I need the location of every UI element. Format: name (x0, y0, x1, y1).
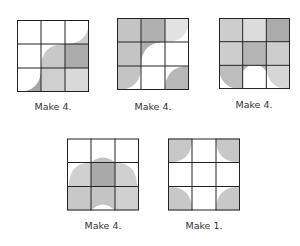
block-4-diagram (67, 138, 139, 211)
quilt-block-3 (219, 17, 290, 90)
block-2-diagram (117, 17, 189, 91)
block-2-label: Make 4. (108, 101, 198, 112)
block-1-label: Make 4. (8, 101, 98, 112)
block-1-diagram (17, 19, 89, 93)
quilt-block-5 (168, 138, 240, 211)
block-3-diagram (219, 17, 290, 90)
block-3-label: Make 4. (209, 99, 299, 110)
quilt-block-1 (17, 19, 89, 93)
block-5-label: Make 1. (159, 220, 249, 231)
block-4-label: Make 4. (58, 220, 148, 231)
block-5-diagram (168, 138, 240, 211)
quilt-block-4 (67, 138, 139, 211)
quilt-block-2 (117, 17, 189, 91)
